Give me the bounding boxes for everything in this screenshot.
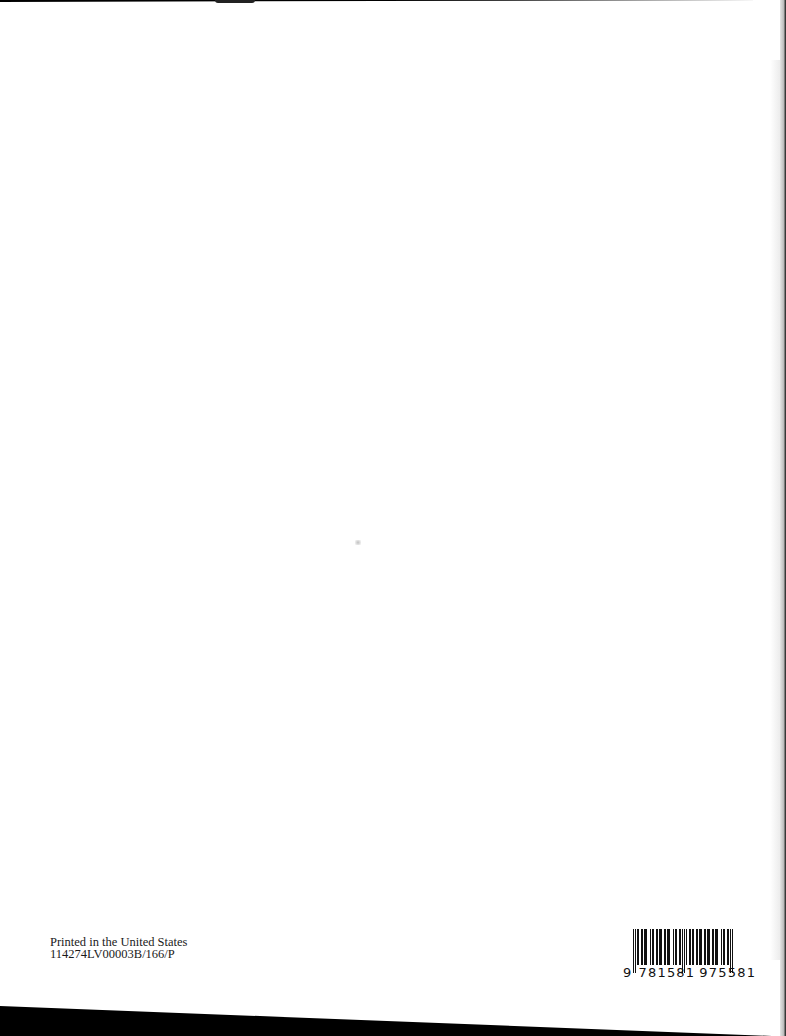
isbn-barcode: 9781581975581 — [623, 929, 753, 981]
printer-imprint: Printed in the United States 114274LV000… — [50, 936, 187, 960]
scanned-page: Printed in the United States 114274LV000… — [0, 0, 786, 1036]
barcode-digits: 9781581975581 — [623, 965, 756, 980]
page-edge-shadow — [770, 60, 780, 960]
paper-speck — [355, 540, 361, 545]
scan-edge-smudge — [215, 0, 255, 3]
barcode-group-2: 975581 — [699, 965, 756, 980]
imprint-code: 114274LV00003B/166/P — [50, 948, 187, 960]
paper-page — [0, 0, 780, 1036]
scan-right-edge — [780, 0, 786, 1036]
barcode-group-1: 781581 — [638, 965, 695, 980]
barcode-lead-digit: 9 — [623, 965, 632, 980]
